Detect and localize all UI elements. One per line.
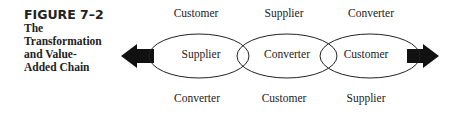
bottom-label-3: Supplier [347, 92, 386, 104]
ellipse-label-3: Customer [344, 48, 389, 60]
top-label-1: Customer [174, 7, 219, 19]
right-arrow-icon [407, 44, 439, 68]
top-label-3: Converter [348, 7, 394, 19]
ellipse-label-1: Supplier [182, 48, 221, 60]
ellipse-label-2: Converter [264, 48, 310, 60]
bottom-label-2: Customer [262, 92, 307, 104]
top-label-2: Supplier [265, 7, 304, 19]
bottom-label-1: Converter [174, 92, 220, 104]
